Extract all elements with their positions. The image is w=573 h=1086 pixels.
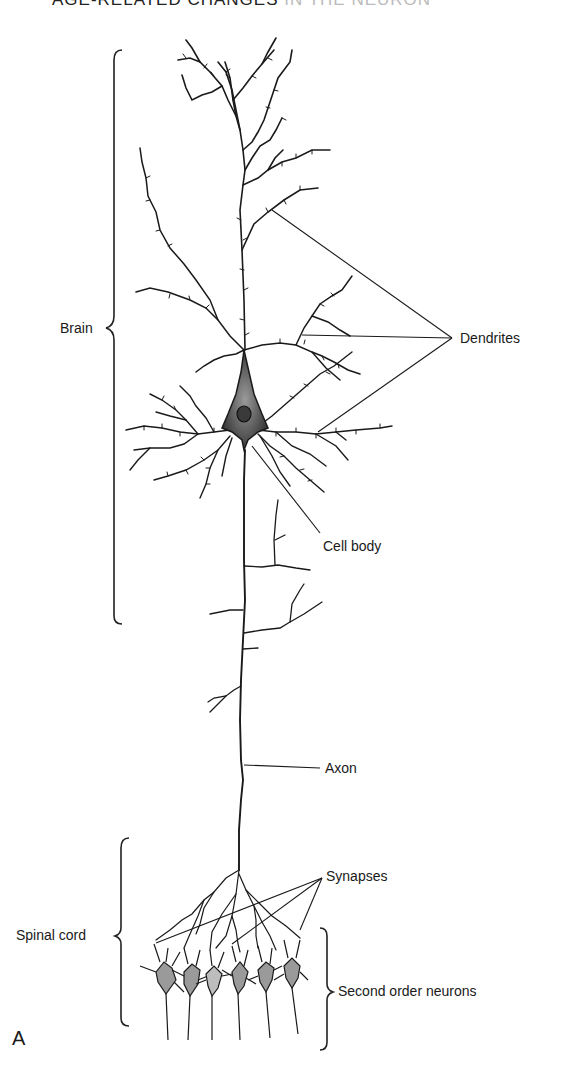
cell-body-leader bbox=[252, 446, 320, 533]
label-cell-body: Cell body bbox=[323, 538, 381, 554]
label-brain: Brain bbox=[60, 320, 93, 336]
label-dendrites: Dendrites bbox=[460, 330, 520, 346]
second-order-neuron-5 bbox=[248, 946, 282, 1038]
label-axon: Axon bbox=[325, 760, 357, 776]
second-order-neuron-2 bbox=[172, 948, 208, 1040]
axon-terminals bbox=[156, 870, 300, 952]
brain-bracket bbox=[106, 50, 122, 624]
label-spinal-cord: Spinal cord bbox=[16, 927, 86, 943]
dendrites-leader-middle bbox=[302, 335, 452, 338]
panel-label: A bbox=[12, 1027, 25, 1050]
spinal-cord-bracket bbox=[115, 838, 129, 1026]
nucleus bbox=[237, 406, 251, 422]
label-synapses: Synapses bbox=[326, 868, 387, 884]
cell-body-soma bbox=[222, 350, 268, 450]
second-order-bracket bbox=[320, 928, 333, 1050]
synapse-leader-lines bbox=[156, 878, 322, 944]
apical-dendrites bbox=[178, 38, 330, 350]
second-order-neuron-6 bbox=[274, 940, 308, 1034]
axon-leader bbox=[244, 765, 320, 768]
second-order-neurons bbox=[140, 940, 308, 1040]
dendrites-leader-upper bbox=[272, 210, 452, 338]
neuron-diagram bbox=[0, 0, 573, 1086]
label-second-order-neurons: Second order neurons bbox=[338, 983, 477, 999]
second-order-neuron-4 bbox=[222, 946, 256, 1040]
axon bbox=[239, 450, 245, 870]
label-leader-lines bbox=[244, 210, 452, 768]
second-order-neuron-1 bbox=[140, 944, 184, 1040]
second-order-neuron-3 bbox=[196, 950, 232, 1040]
dendrites-leader-lower bbox=[318, 338, 452, 432]
axon-collaterals bbox=[208, 500, 322, 712]
